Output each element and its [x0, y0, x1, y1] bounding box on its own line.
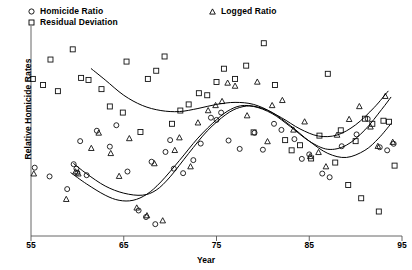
- data-point-circle: [260, 147, 265, 152]
- data-point-triangle: [316, 149, 322, 154]
- data-point-square: [162, 54, 167, 59]
- data-point-triangle: [188, 164, 194, 169]
- data-point-circle: [181, 171, 186, 176]
- trend-curve: [74, 97, 391, 195]
- data-point-triangle: [323, 164, 329, 169]
- data-point-circle: [107, 144, 112, 149]
- data-point-square: [233, 76, 238, 81]
- data-point-circle: [198, 141, 203, 146]
- data-point-square: [359, 196, 364, 201]
- data-point-square: [338, 128, 343, 133]
- y-axis-label: Relative Homicide Rates: [23, 29, 33, 189]
- data-point-circle: [279, 127, 284, 132]
- series-residual-deviation: [30, 41, 397, 214]
- data-point-square: [283, 138, 288, 143]
- data-point-circle: [153, 222, 158, 227]
- data-point-square: [289, 148, 294, 153]
- data-point-triangle: [302, 119, 308, 124]
- data-point-square: [381, 118, 386, 123]
- data-point-square: [186, 102, 191, 107]
- trend-curve: [91, 69, 391, 158]
- data-point-triangle: [265, 139, 271, 144]
- data-point-circle: [320, 171, 325, 176]
- data-point-triangle: [116, 173, 122, 178]
- plot-area: [0, 0, 412, 270]
- x-tick-label: 65: [119, 240, 128, 250]
- data-point-triangle: [269, 102, 275, 107]
- data-point-triangle: [177, 135, 183, 140]
- data-point-circle: [299, 156, 304, 161]
- data-point-triangle: [225, 80, 231, 85]
- data-point-triangle: [205, 108, 211, 113]
- data-point-square: [214, 79, 219, 84]
- data-point-square: [55, 89, 60, 94]
- x-tick-label: 95: [397, 240, 406, 250]
- data-point-triangle: [346, 116, 352, 121]
- data-point-triangle: [160, 218, 166, 223]
- data-point-square: [353, 139, 358, 144]
- data-point-triangle: [280, 97, 286, 102]
- data-point-square: [124, 59, 129, 64]
- data-point-circle: [114, 123, 119, 128]
- data-point-square: [41, 83, 46, 88]
- x-tick-label: 85: [305, 240, 314, 250]
- data-point-circle: [191, 158, 196, 163]
- data-point-triangle: [255, 79, 261, 84]
- data-point-square: [138, 129, 143, 134]
- data-point-square: [261, 41, 266, 46]
- data-point-square: [221, 66, 226, 71]
- series-logged-ratio: [31, 79, 396, 223]
- data-point-square: [86, 77, 91, 82]
- data-point-square: [169, 121, 174, 126]
- data-point-square: [333, 160, 338, 165]
- data-point-square: [79, 75, 84, 80]
- chart-root: Homicide Ratio Residual Deviation Logged…: [0, 0, 412, 270]
- data-point-triangle: [219, 98, 225, 103]
- x-tick-label: 75: [212, 240, 221, 250]
- data-point-square: [325, 71, 330, 76]
- data-point-triangle: [244, 113, 250, 118]
- data-point-square: [205, 93, 210, 98]
- data-point-circle: [65, 187, 70, 192]
- data-point-circle: [272, 121, 277, 126]
- data-point-circle: [125, 169, 130, 174]
- data-point-circle: [237, 146, 242, 151]
- trend-curve: [71, 91, 388, 201]
- x-tick-label: 55: [26, 240, 35, 250]
- data-point-circle: [47, 174, 52, 179]
- data-point-circle: [78, 139, 83, 144]
- data-point-square: [120, 110, 125, 115]
- data-point-square: [376, 209, 381, 214]
- data-point-square: [392, 163, 397, 168]
- data-point-circle: [292, 137, 297, 142]
- data-point-triangle: [108, 150, 114, 155]
- data-point-square: [154, 68, 159, 73]
- data-point-square: [178, 108, 183, 113]
- data-point-circle: [168, 138, 173, 143]
- data-point-triangle: [357, 103, 363, 108]
- data-point-square: [48, 57, 53, 62]
- data-point-circle: [385, 148, 390, 153]
- x-axis-label: Year: [0, 255, 412, 265]
- data-point-circle: [208, 115, 213, 120]
- data-point-square: [70, 47, 75, 52]
- data-point-triangle: [232, 83, 238, 88]
- data-point-triangle: [63, 196, 69, 201]
- data-point-circle: [226, 138, 231, 143]
- data-point-square: [145, 76, 150, 81]
- data-point-triangle: [172, 147, 178, 152]
- data-point-triangle: [152, 161, 158, 166]
- data-point-triangle: [88, 145, 94, 150]
- data-point-square: [297, 143, 302, 148]
- data-point-square: [107, 104, 112, 109]
- data-point-square: [244, 63, 249, 68]
- data-point-square: [99, 87, 104, 92]
- data-point-circle: [163, 149, 168, 154]
- data-point-circle: [327, 175, 332, 180]
- data-point-square: [196, 91, 201, 96]
- data-point-square: [346, 183, 351, 188]
- data-point-triangle: [195, 120, 201, 125]
- data-point-triangle: [127, 135, 133, 140]
- data-point-square: [272, 83, 277, 88]
